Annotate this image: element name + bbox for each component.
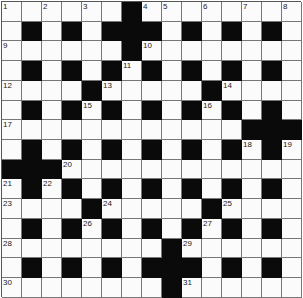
answer-cell[interactable] — [202, 179, 222, 199]
answer-cell[interactable] — [202, 120, 222, 140]
answer-cell[interactable] — [162, 219, 182, 239]
answer-cell[interactable] — [162, 61, 182, 81]
answer-cell[interactable] — [282, 41, 302, 61]
answer-cell[interactable] — [62, 199, 82, 219]
answer-cell[interactable] — [62, 120, 82, 140]
answer-cell[interactable] — [22, 120, 42, 140]
answer-cell[interactable] — [42, 278, 62, 298]
answer-cell[interactable] — [162, 120, 182, 140]
answer-cell[interactable] — [242, 199, 262, 219]
answer-cell[interactable] — [122, 120, 142, 140]
answer-cell[interactable] — [242, 160, 262, 180]
answer-cell[interactable] — [282, 22, 302, 42]
answer-cell[interactable] — [2, 140, 22, 160]
answer-cell[interactable]: 21 — [2, 179, 22, 199]
answer-cell[interactable] — [282, 81, 302, 101]
answer-cell[interactable] — [242, 258, 262, 278]
answer-cell[interactable] — [262, 81, 282, 101]
answer-cell[interactable] — [22, 199, 42, 219]
answer-cell[interactable] — [282, 199, 302, 219]
answer-cell[interactable]: 15 — [82, 101, 102, 121]
answer-cell[interactable] — [122, 239, 142, 259]
answer-cell[interactable]: 2 — [42, 2, 62, 22]
answer-cell[interactable] — [142, 278, 162, 298]
answer-cell[interactable] — [82, 239, 102, 259]
answer-cell[interactable]: 11 — [122, 61, 142, 81]
answer-cell[interactable] — [122, 101, 142, 121]
answer-cell[interactable] — [102, 41, 122, 61]
answer-cell[interactable] — [102, 160, 122, 180]
answer-cell[interactable] — [242, 61, 262, 81]
answer-cell[interactable] — [262, 41, 282, 61]
answer-cell[interactable] — [22, 41, 42, 61]
answer-cell[interactable] — [102, 278, 122, 298]
answer-cell[interactable]: 7 — [242, 2, 262, 22]
answer-cell[interactable]: 13 — [102, 81, 122, 101]
answer-cell[interactable] — [82, 41, 102, 61]
answer-cell[interactable] — [182, 2, 202, 22]
answer-cell[interactable] — [282, 160, 302, 180]
answer-cell[interactable] — [122, 219, 142, 239]
answer-cell[interactable] — [262, 239, 282, 259]
answer-cell[interactable] — [22, 278, 42, 298]
answer-cell[interactable]: 12 — [2, 81, 22, 101]
answer-cell[interactable] — [282, 278, 302, 298]
answer-cell[interactable]: 31 — [182, 278, 202, 298]
answer-cell[interactable]: 27 — [202, 219, 222, 239]
answer-cell[interactable] — [2, 61, 22, 81]
answer-cell[interactable] — [142, 199, 162, 219]
answer-cell[interactable] — [42, 101, 62, 121]
answer-cell[interactable] — [42, 199, 62, 219]
answer-cell[interactable] — [242, 179, 262, 199]
answer-cell[interactable] — [82, 22, 102, 42]
answer-cell[interactable] — [122, 140, 142, 160]
answer-cell[interactable] — [42, 219, 62, 239]
answer-cell[interactable] — [82, 278, 102, 298]
answer-cell[interactable] — [222, 160, 242, 180]
answer-cell[interactable] — [222, 239, 242, 259]
answer-cell[interactable] — [62, 278, 82, 298]
answer-cell[interactable] — [202, 239, 222, 259]
answer-cell[interactable] — [2, 258, 22, 278]
answer-cell[interactable] — [2, 219, 22, 239]
answer-cell[interactable] — [2, 101, 22, 121]
answer-cell[interactable] — [202, 61, 222, 81]
answer-cell[interactable] — [102, 2, 122, 22]
answer-cell[interactable] — [242, 278, 262, 298]
answer-cell[interactable] — [62, 2, 82, 22]
answer-cell[interactable] — [62, 41, 82, 61]
answer-cell[interactable] — [262, 199, 282, 219]
answer-cell[interactable]: 5 — [162, 2, 182, 22]
answer-cell[interactable] — [62, 239, 82, 259]
answer-cell[interactable] — [242, 219, 262, 239]
answer-cell[interactable] — [42, 120, 62, 140]
answer-cell[interactable]: 18 — [242, 140, 262, 160]
answer-cell[interactable] — [122, 278, 142, 298]
answer-cell[interactable] — [222, 2, 242, 22]
answer-cell[interactable] — [222, 278, 242, 298]
answer-cell[interactable] — [162, 22, 182, 42]
answer-cell[interactable]: 1 — [2, 2, 22, 22]
answer-cell[interactable] — [82, 258, 102, 278]
answer-cell[interactable] — [162, 101, 182, 121]
answer-cell[interactable] — [162, 160, 182, 180]
answer-cell[interactable] — [202, 140, 222, 160]
answer-cell[interactable]: 20 — [62, 160, 82, 180]
answer-cell[interactable] — [202, 41, 222, 61]
answer-cell[interactable] — [162, 41, 182, 61]
answer-cell[interactable] — [142, 120, 162, 140]
answer-cell[interactable] — [242, 22, 262, 42]
answer-cell[interactable] — [122, 81, 142, 101]
answer-cell[interactable] — [182, 81, 202, 101]
answer-cell[interactable] — [82, 140, 102, 160]
answer-cell[interactable] — [42, 61, 62, 81]
answer-cell[interactable] — [62, 81, 82, 101]
answer-cell[interactable] — [282, 61, 302, 81]
answer-cell[interactable] — [202, 160, 222, 180]
answer-cell[interactable] — [182, 199, 202, 219]
answer-cell[interactable] — [82, 120, 102, 140]
answer-cell[interactable] — [42, 258, 62, 278]
answer-cell[interactable] — [282, 258, 302, 278]
answer-cell[interactable]: 24 — [102, 199, 122, 219]
answer-cell[interactable] — [182, 120, 202, 140]
